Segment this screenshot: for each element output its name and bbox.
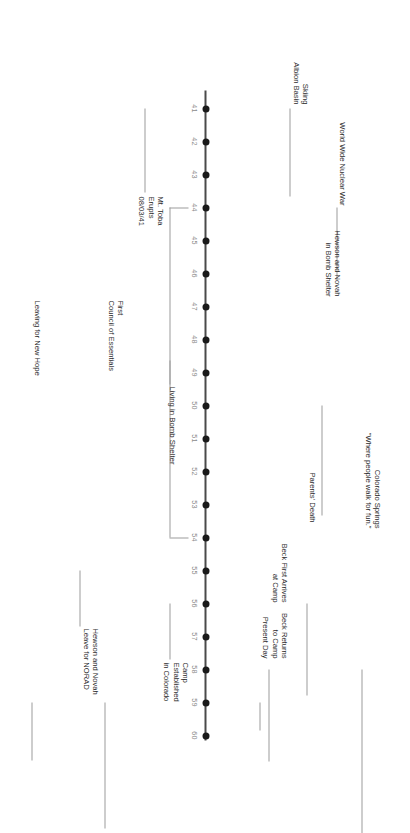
event-camp-established: Camp Established in Colorado: [161, 662, 189, 754]
timeline-tick-44[interactable]: [202, 204, 209, 211]
tick-label-57: 57: [189, 632, 198, 640]
leader-colorado-springs: [361, 669, 362, 833]
timeline-tick-56[interactable]: [202, 600, 209, 607]
timeline-tick-53[interactable]: [202, 501, 209, 508]
tick-label-45: 45: [189, 236, 198, 244]
timeline-tick-59[interactable]: [202, 699, 209, 706]
leader-camp-established: [169, 603, 170, 659]
span-label-living-in-bomb-shelter: Living in Bomb Shelter: [167, 386, 176, 464]
timeline-tick-50[interactable]: [202, 402, 209, 409]
leader-beck-first-arrives: [268, 669, 269, 761]
leader-leave-norad: [79, 570, 80, 626]
event-camp-established-line-3: in Colorado: [161, 662, 170, 754]
event-parents-death-line-1: Parents' Death: [307, 430, 316, 522]
timeline-tick-47[interactable]: [202, 303, 209, 310]
event-leaving-new-hope: Leaving for New Hope: [32, 300, 41, 450]
tick-label-42: 42: [189, 137, 198, 145]
tick-label-54: 54: [189, 533, 198, 541]
timeline-tick-51[interactable]: [202, 435, 209, 442]
tick-label-41: 41: [189, 104, 198, 112]
event-leave-norad-line-1: Hewson and Novah: [90, 628, 99, 748]
timeline-tick-49[interactable]: [202, 369, 209, 376]
tick-label-55: 55: [189, 566, 198, 574]
timeline-tick-43[interactable]: [202, 171, 209, 178]
event-bomb-shelter: Hewson and Novah in Bomb Shelter: [322, 186, 341, 296]
event-camp-established-line-2: Established: [170, 662, 179, 754]
leader-parents-death: [306, 603, 307, 695]
leader-skiing-albion: [289, 108, 290, 196]
event-colorado-springs-line-1: Colorado Springs: [372, 300, 381, 528]
event-leaving-new-hope-line-1: Leaving for New Hope: [32, 300, 41, 450]
timeline-tick-58[interactable]: [202, 666, 209, 673]
leader-first-council: [104, 702, 105, 828]
event-beck-returns-line-1: Beck Returns: [279, 570, 288, 658]
event-parents-death: Parents' Death: [307, 430, 316, 522]
timeline-axis: [204, 90, 206, 740]
event-leave-norad-line-2: Leave for NORAD: [80, 628, 89, 748]
event-beck-returns-line-3: Present Day: [260, 570, 269, 658]
span-bracket-stem: [169, 360, 170, 384]
tick-label-50: 50: [189, 401, 198, 409]
span-bracket-left-arm: [169, 207, 188, 208]
tick-label-51: 51: [189, 434, 198, 442]
leader-bomb-shelter: [321, 405, 322, 515]
timeline-tick-54[interactable]: [202, 534, 209, 541]
tick-label-58: 58: [189, 665, 198, 673]
event-beck-returns-line-2: to Camp: [269, 570, 278, 658]
leader-leaving-new-hope: [31, 702, 32, 760]
tick-label-49: 49: [189, 368, 198, 376]
tick-label-53: 53: [189, 500, 198, 508]
event-mt-toba-line-1: Mt. Toba: [155, 196, 164, 306]
event-mt-toba-line-3: 08/03/41: [136, 196, 145, 306]
event-first-council-line-2: Council of Essentials: [105, 300, 114, 420]
event-beck-returns: Beck Returns to Camp Present Day: [260, 570, 288, 658]
event-bomb-shelter-line-2: in Bomb Shelter: [322, 186, 331, 296]
timeline-tick-45[interactable]: [202, 237, 209, 244]
timeline-tick-46[interactable]: [202, 270, 209, 277]
leader-beck-returns: [259, 702, 260, 730]
event-skiing-albion-line-2: Albion Basin: [290, 0, 299, 104]
tick-label-59: 59: [189, 698, 198, 706]
event-mt-toba-line-2: Erupts: [145, 196, 154, 306]
timeline-tick-55[interactable]: [202, 567, 209, 574]
event-first-council-line-1: First: [115, 300, 124, 420]
event-first-council: First Council of Essentials: [105, 300, 124, 420]
span-bracket-right-arm: [169, 537, 188, 538]
timeline-tick-57[interactable]: [202, 633, 209, 640]
tick-label-44: 44: [189, 203, 198, 211]
tick-label-43: 43: [189, 170, 198, 178]
tick-label-52: 52: [189, 467, 198, 475]
event-camp-established-line-1: Camp: [180, 662, 189, 754]
tick-label-56: 56: [189, 599, 198, 607]
timeline-tick-42[interactable]: [202, 138, 209, 145]
event-skiing-albion: Skiing Albion Basin: [290, 0, 309, 104]
timeline-tick-60[interactable]: [202, 732, 209, 739]
tick-label-48: 48: [189, 335, 198, 343]
leader-mt-toba: [144, 108, 145, 192]
event-leave-norad: Hewson and Novah Leave for NORAD: [80, 628, 99, 748]
timeline-tick-41[interactable]: [202, 105, 209, 112]
event-mt-toba: Mt. Toba Erupts 08/03/41: [136, 196, 164, 306]
tick-label-47: 47: [189, 302, 198, 310]
event-colorado-springs: Colorado Springs "Where people walk for …: [362, 300, 381, 528]
tick-label-46: 46: [189, 269, 198, 277]
event-skiing-albion-line-1: Skiing: [300, 0, 309, 104]
event-bomb-shelter-line-1: Hewson and Novah: [332, 186, 341, 296]
timeline-tick-52[interactable]: [202, 468, 209, 475]
event-colorado-springs-line-2: "Where people walk for fun.": [362, 300, 371, 528]
tick-label-60: 60: [189, 731, 198, 739]
timeline-tick-48[interactable]: [202, 336, 209, 343]
